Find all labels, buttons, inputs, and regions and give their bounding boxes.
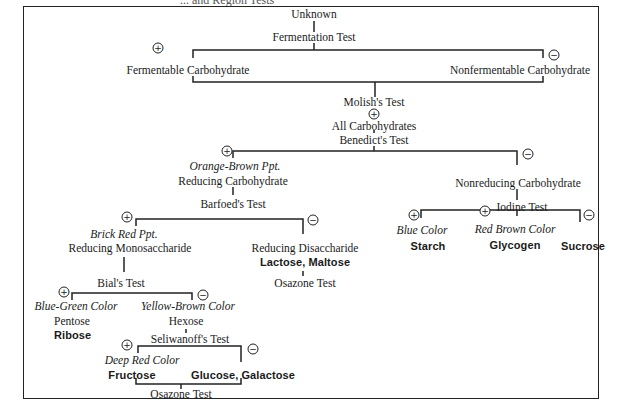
positive-sign-icon: +: [409, 210, 420, 221]
positive-sign-icon: +: [222, 146, 233, 157]
negative-sign-icon: −: [248, 344, 259, 355]
node-lactose-maltose: Lactose, Maltose: [260, 256, 350, 269]
bial-test-label: Bial's Test: [97, 277, 144, 290]
node-nonreducing-carbohydrate: Nonreducing Carbohydrate: [455, 177, 581, 190]
node-hexose: Hexose: [169, 315, 204, 328]
node-reducing-carbohydrate: Reducing Carbohydrate: [178, 175, 288, 188]
positive-sign-icon: +: [153, 43, 164, 54]
node-fructose: Fructose: [108, 369, 155, 382]
blue-green-color-observation: Blue-Green Color: [35, 300, 118, 313]
blue-color-observation: Blue Color: [397, 224, 448, 237]
positive-sign-icon: +: [59, 287, 70, 298]
osazone-test-label-disaccharide: Osazone Test: [274, 277, 335, 290]
node-glycogen: Glycogen: [490, 239, 541, 252]
negative-sign-icon: −: [308, 215, 319, 226]
node-fermentable-carbohydrate: Fermentable Carbohydrate: [127, 64, 250, 77]
positive-sign-icon: +: [480, 206, 491, 217]
fermentation-test-label: Fermentation Test: [273, 31, 356, 44]
positive-sign-icon: +: [122, 340, 133, 351]
red-brown-color-observation: Red Brown Color: [475, 223, 556, 236]
node-pentose: Pentose: [54, 315, 90, 328]
benedict-test-label: Benedict's Test: [339, 134, 408, 147]
negative-sign-icon: −: [584, 210, 595, 221]
positive-sign-icon: +: [122, 212, 133, 223]
negative-sign-icon: −: [523, 149, 534, 160]
deep-red-color-observation: Deep Red Color: [105, 354, 180, 367]
molish-test-label: Molish's Test: [344, 96, 405, 109]
node-all-carbohydrates: All Carbohydrates: [332, 120, 417, 133]
positive-sign-icon: +: [369, 109, 380, 120]
brick-red-ppt-observation: Brick Red Ppt.: [90, 228, 157, 241]
node-sucrose: Sucrose: [561, 240, 605, 253]
orange-brown-ppt-observation: Orange-Brown Ppt.: [190, 160, 281, 173]
osazone-test-label-hexose: Osazone Test: [150, 388, 211, 401]
barfoed-test-label: Barfoed's Test: [200, 198, 265, 211]
node-unknown: Unknown: [291, 8, 336, 21]
node-reducing-disaccharide: Reducing Disaccharide: [252, 242, 359, 255]
iodine-test-label: Iodine Test: [496, 201, 547, 214]
node-ribose: Ribose: [54, 329, 91, 342]
negative-sign-icon: −: [549, 50, 560, 61]
node-glucose-galactose: Glucose, Galactose: [191, 369, 295, 382]
node-starch: Starch: [411, 240, 446, 253]
yellow-brown-color-observation: Yellow-Brown Color: [141, 300, 235, 313]
node-nonfermentable-carbohydrate: Nonfermentable Carbohydrate: [450, 64, 590, 77]
node-reducing-monosaccharide: Reducing Monosaccharide: [69, 242, 192, 255]
negative-sign-icon: −: [198, 290, 209, 301]
seliwanoff-test-label: Seliwanoff's Test: [151, 333, 229, 346]
